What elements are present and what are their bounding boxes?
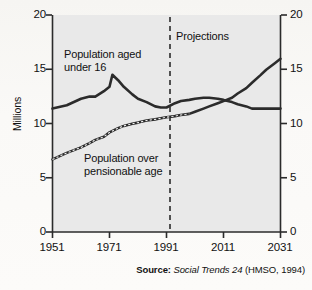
y-axis-left-label-10: 10 <box>24 118 46 130</box>
source-publisher: (HMSO, 1994) <box>245 264 305 275</box>
x-axis-label-2011: 2011 <box>203 242 243 254</box>
y-axis-left-label-5: 5 <box>24 172 46 184</box>
y-axis-right-ticks <box>281 15 287 232</box>
source-lead: Source: <box>136 264 171 275</box>
y-axis-left-label-0: 0 <box>24 226 46 238</box>
y-axis-right-label-10: 10 <box>290 118 312 130</box>
y-axis-left-label-15: 15 <box>24 63 46 75</box>
y-axis-right-label-20: 20 <box>290 9 312 21</box>
source-note: Source: Social Trends 24 (HMSO, 1994) <box>0 264 305 275</box>
annotation-pensionable-age-line2: pensionable age <box>84 165 163 178</box>
annotation-under-16-line2: under 16 <box>64 61 141 74</box>
x-axis-ticks <box>53 232 281 238</box>
annotation-under-16: Population aged under 16 <box>64 48 141 73</box>
x-axis-label-1951: 1951 <box>32 242 72 254</box>
annotation-pensionable-age-line1: Population over <box>84 152 163 165</box>
y-axis-left-ticks <box>46 15 52 232</box>
y-axis-right-label-15: 15 <box>290 63 312 75</box>
x-axis-label-1971: 1971 <box>89 242 129 254</box>
annotation-under-16-line1: Population aged <box>64 48 141 61</box>
y-axis-left-label-20: 20 <box>24 9 46 21</box>
series-line-under-16 <box>53 75 281 109</box>
annotation-pensionable-age: Population over pensionable age <box>84 152 163 177</box>
x-axis-label-1991: 1991 <box>146 242 186 254</box>
x-axis-label-2031: 2031 <box>260 242 300 254</box>
y-axis-title: Millions <box>11 84 23 144</box>
y-axis-right-label-5: 5 <box>290 172 312 184</box>
annotation-projections: Projections <box>176 30 229 43</box>
y-axis-right-label-0: 0 <box>290 226 312 238</box>
population-projection-chart: 20 15 10 5 0 20 15 10 5 0 1951 1971 1991… <box>0 0 312 290</box>
source-title: Social Trends 24 <box>173 264 242 275</box>
series-line-pensionable-age <box>53 59 281 160</box>
